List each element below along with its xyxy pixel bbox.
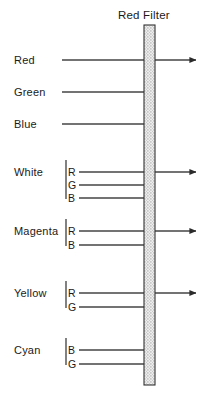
red-filter-diagram: Red Filter RedGreenBlueWhiteRGBMagentaRB… [0,0,205,399]
component-label-white-g: G [68,180,76,191]
beam-label-cyan: Cyan [14,345,40,356]
beam-label-yellow: Yellow [14,288,47,299]
beam-label-red: Red [14,55,35,66]
component-label-cyan-b: B [68,345,75,356]
beam-label-blue: Blue [14,119,37,130]
beam-label-white: White [14,167,43,178]
component-label-yellow-r: R [68,288,76,299]
component-label-yellow-g: G [68,302,76,313]
component-label-white-b: B [68,193,75,204]
diagram-title: Red Filter [118,10,170,21]
filter-bar-layer [144,25,155,385]
beam-label-green: Green [14,87,46,98]
component-label-cyan-g: G [68,359,76,370]
component-label-magenta-r: R [68,226,76,237]
component-label-magenta-b: B [68,240,75,251]
red-filter-bar [144,25,155,385]
rays-layer [62,60,196,365]
beam-label-magenta: Magenta [14,226,58,237]
component-label-white-r: R [68,167,76,178]
